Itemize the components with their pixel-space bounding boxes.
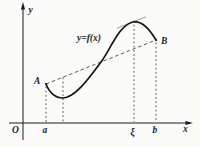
- tick-label-a: a: [43, 125, 48, 135]
- figure-canvas: y x O a ξ b A B y=f(x): [0, 0, 200, 147]
- mean-value-theorem-figure: y x O a ξ b A B y=f(x): [0, 0, 200, 147]
- x-axis-label: x: [182, 124, 188, 134]
- curve-label: y=f(x): [76, 33, 101, 44]
- curve: [46, 22, 156, 98]
- point-B: [155, 39, 157, 41]
- origin-label: O: [12, 125, 19, 135]
- point-B-label: B: [160, 36, 167, 46]
- tick-label-b: b: [153, 125, 158, 135]
- tick-label-xi: ξ: [131, 127, 136, 138]
- y-axis-arrow-icon: [21, 2, 25, 10]
- point-A: [45, 83, 47, 85]
- y-axis-label: y: [28, 5, 34, 15]
- point-A-label: A: [33, 76, 40, 86]
